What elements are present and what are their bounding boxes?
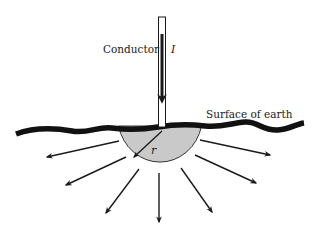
surface-of-earth-label: Surface of earth	[206, 108, 293, 120]
radius-label: r	[151, 144, 157, 157]
current-arrow	[181, 168, 212, 212]
conductor-label: Conductor	[103, 43, 160, 55]
current-label: I	[170, 43, 176, 56]
current-arrow	[47, 141, 119, 157]
current-arrow	[106, 169, 139, 213]
current-arrow	[200, 140, 270, 155]
current-arrow	[195, 155, 256, 183]
current-arrow	[66, 157, 126, 185]
grounding-diagram: r Conductor I Surface of earth	[0, 0, 318, 235]
